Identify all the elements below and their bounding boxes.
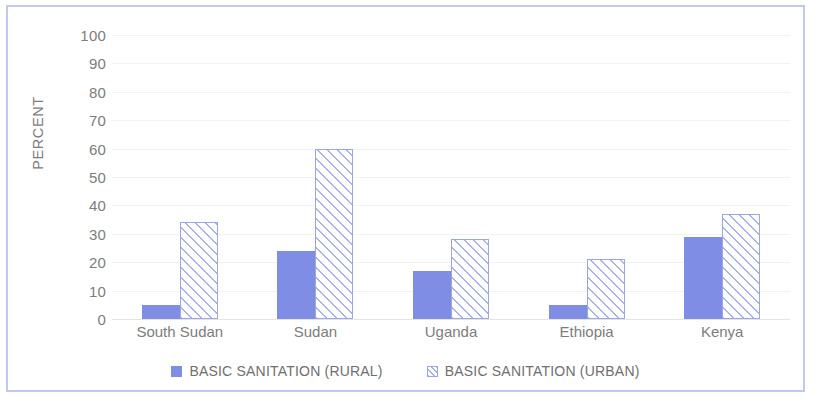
x-axis-tick-label: Ethiopia <box>519 323 655 340</box>
y-axis-tick-label: 0 <box>97 311 106 328</box>
bar-urban[interactable] <box>722 214 760 319</box>
legend-swatch-icon <box>171 366 182 377</box>
plot-area <box>112 35 790 319</box>
y-axis-tick-label: 20 <box>89 254 106 271</box>
y-axis-tick-label: 90 <box>89 55 106 72</box>
bar-rural[interactable] <box>142 305 180 319</box>
bar-urban[interactable] <box>587 259 625 319</box>
y-axis-tick-label: 70 <box>89 112 106 129</box>
chart-legend: BASIC SANITATION (RURAL)BASIC SANITATION… <box>8 363 803 379</box>
x-axis-tick-label: Kenya <box>654 323 790 340</box>
bar-group <box>112 35 248 319</box>
bar-group <box>383 35 519 319</box>
bar-group <box>248 35 384 319</box>
chart-frame: PERCENT 1009080706050403020100 South Sud… <box>6 5 805 392</box>
bar-urban[interactable] <box>451 239 489 319</box>
legend-swatch-icon <box>427 366 438 377</box>
bar-urban[interactable] <box>180 222 218 319</box>
x-axis-tick-label: Sudan <box>248 323 384 340</box>
legend-label: BASIC SANITATION (RURAL) <box>189 363 382 379</box>
y-axis-tick-label: 40 <box>89 197 106 214</box>
legend-label: BASIC SANITATION (URBAN) <box>445 363 640 379</box>
y-axis-tick-label: 80 <box>89 83 106 100</box>
y-axis-tick-label: 60 <box>89 140 106 157</box>
bar-rural[interactable] <box>684 237 722 319</box>
bar-rural[interactable] <box>277 251 315 319</box>
bar-urban[interactable] <box>315 149 353 319</box>
bar-group <box>519 35 655 319</box>
x-axis-tick-label: South Sudan <box>112 323 248 340</box>
bar-group <box>654 35 790 319</box>
y-axis-tick-label: 10 <box>89 282 106 299</box>
x-axis-tick-label: Uganda <box>383 323 519 340</box>
legend-item[interactable]: BASIC SANITATION (URBAN) <box>427 363 640 379</box>
y-axis-tick-label: 50 <box>89 169 106 186</box>
y-axis-tick-label: 30 <box>89 225 106 242</box>
y-axis-tick-label: 100 <box>80 27 106 44</box>
y-axis-title: PERCENT <box>30 53 46 213</box>
bar-rural[interactable] <box>413 271 451 319</box>
bar-rural[interactable] <box>549 305 587 319</box>
gridline <box>112 319 790 320</box>
legend-item[interactable]: BASIC SANITATION (RURAL) <box>171 363 382 379</box>
y-axis-tick-labels: 1009080706050403020100 <box>48 35 106 319</box>
x-axis-tick-labels: South SudanSudanUgandaEthiopiaKenya <box>112 323 790 349</box>
